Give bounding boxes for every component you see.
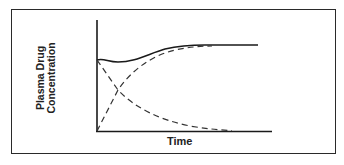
y-axis-label-line2: Concentration xyxy=(46,33,57,123)
rising-component-curve xyxy=(97,46,212,131)
total-concentration-curve xyxy=(97,45,258,62)
declining-component-curve xyxy=(97,60,232,131)
y-axis-label: Plasma Drug Concentration xyxy=(35,33,57,123)
x-axis-label: Time xyxy=(167,135,192,147)
